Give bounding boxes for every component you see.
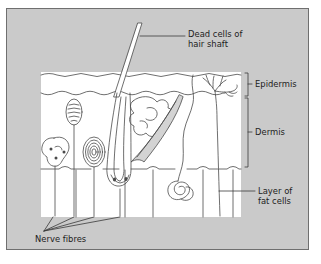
label-nerve-fibres: Nerve fibres: [35, 234, 86, 244]
hair-papilla-dot: [113, 177, 116, 181]
ruffini-receptor-dot: [50, 148, 53, 151]
label-fat-layer: Layer of fat cells: [258, 186, 292, 206]
dermis-bracket: [245, 98, 248, 167]
figure-frame: Dead cells of hair shaft Epidermis Dermi…: [6, 8, 309, 250]
label-dermis: Dermis: [255, 127, 285, 137]
ruffini-receptor-dot: [63, 151, 66, 154]
label-epidermis: Epidermis: [255, 79, 297, 89]
hair-papilla-dot: [124, 177, 127, 181]
nerve-fibres-leader: [44, 217, 120, 231]
ruffini-receptor-dot: [55, 157, 58, 160]
pacinian-receptor: [83, 137, 105, 167]
epidermis-bracket: [245, 73, 248, 96]
label-hair-shaft: Dead cells of hair shaft: [188, 29, 242, 49]
